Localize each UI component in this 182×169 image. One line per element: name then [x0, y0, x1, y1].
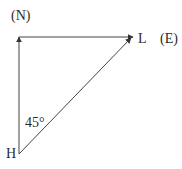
east-label: (E) [160, 32, 178, 46]
north-label: (N) [11, 9, 30, 23]
resultant-vector [19, 38, 131, 154]
point-h-label: H [6, 147, 16, 161]
angle-label: 45° [25, 116, 45, 130]
vector-diagram [0, 0, 182, 169]
point-l-label: L [138, 32, 147, 46]
